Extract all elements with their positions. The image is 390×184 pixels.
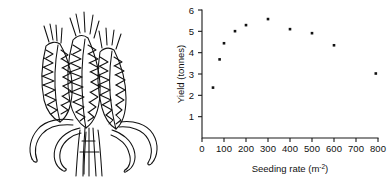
x-axis-title-paren: ) [325,163,328,174]
wheat-ears-icon [0,0,175,184]
wheat-ear-right [98,28,126,129]
x-tick-label: 400 [282,143,298,154]
data-point [245,24,248,27]
data-point [333,44,336,47]
y-axis-ticks [198,10,202,117]
data-point [223,42,226,45]
y-tick-label: 2 [189,90,194,101]
y-axis-tick-labels: 6 5 4 3 2 1 [189,5,194,123]
x-tick-label: 700 [348,143,364,154]
x-tick-label: 100 [216,143,232,154]
x-tick-label: 300 [260,143,276,154]
scatter-plot-panel: 6 5 4 3 2 1 0 100 [175,0,390,184]
y-tick-label: 5 [189,26,194,37]
x-axis-title-text: Seeding rate (m [252,163,320,174]
x-tick-label: 200 [238,143,254,154]
y-tick-label: 1 [189,111,194,122]
y-tick-label: 4 [189,47,194,58]
yield-vs-seeding-rate-scatter: 6 5 4 3 2 1 0 100 [175,0,390,184]
data-point [267,18,270,21]
x-tick-label: 800 [370,143,386,154]
wheat-ear-center [68,12,100,128]
y-tick-label: 3 [189,69,194,80]
y-axis-title: Yield (tonnes) [175,45,186,103]
data-point [234,30,237,33]
data-point [311,32,314,35]
x-tick-label: 600 [326,143,342,154]
data-point [212,86,215,89]
wheat-leaves-and-stems [30,119,157,176]
wheat-illustration-panel [0,0,175,184]
x-axis-title: Seeding rate (m-2) [252,163,329,174]
x-axis-ticks [202,138,378,142]
x-tick-label: 500 [304,143,320,154]
data-point [218,58,221,61]
data-point [375,72,378,75]
data-point [289,28,292,31]
y-tick-label: 6 [189,5,194,16]
x-axis-tick-labels: 0 100 200 300 400 500 600 700 800 [199,143,386,154]
figure-root: 6 5 4 3 2 1 0 100 [0,0,390,184]
data-points-layer [212,18,377,89]
x-tick-label: 0 [199,143,204,154]
